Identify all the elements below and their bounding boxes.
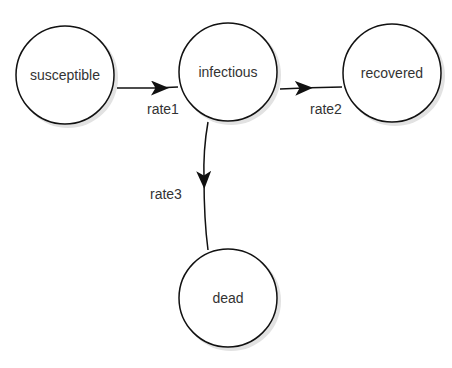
node-label-recovered: recovered [361,65,423,81]
node-recovered[interactable]: recovered [343,24,441,122]
node-infectious[interactable]: infectious [179,23,277,121]
edge-rate2: rate2 [280,87,342,117]
node-label-susceptible: susceptible [30,67,100,83]
edge-label-rate3: rate3 [150,186,182,202]
node-dead[interactable]: dead [179,249,277,347]
edge-rate1: rate1 [117,87,179,117]
edge-label-rate2: rate2 [310,101,342,117]
node-label-dead: dead [212,290,243,306]
state-diagram: rate1 rate2 rate3 susceptible infectious… [0,0,452,368]
node-susceptible[interactable]: susceptible [16,26,114,124]
edge-rate3: rate3 [150,122,208,250]
edge-label-rate1: rate1 [147,101,179,117]
node-label-infectious: infectious [198,64,257,80]
